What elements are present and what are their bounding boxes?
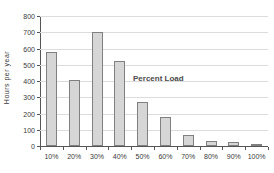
x-tick-mark-8	[222, 147, 223, 150]
plot-area: Percent Load	[40, 16, 268, 146]
x-tick-label-100%: 100%	[245, 153, 269, 160]
x-tick-label-80%: 80%	[199, 153, 223, 160]
y-tick-mark-100	[37, 130, 40, 131]
x-tick-mark-3	[108, 147, 109, 150]
y-tick-label-0: 0	[11, 143, 35, 150]
x-tick-label-20%: 20%	[62, 153, 86, 160]
x-tick-label-30%: 30%	[85, 153, 109, 160]
x-tick-label-40%: 40%	[108, 153, 132, 160]
y-tick-label-800: 800	[11, 13, 35, 20]
y-tick-mark-400	[37, 81, 40, 82]
y-tick-label-700: 700	[11, 29, 35, 36]
x-tick-mark-7	[200, 147, 201, 150]
y-axis-title: Hours per year	[3, 46, 10, 110]
x-tick-mark-5	[154, 147, 155, 150]
gridline-800	[40, 16, 268, 17]
x-tick-label-60%: 60%	[153, 153, 177, 160]
x-tick-mark-10	[268, 147, 269, 150]
x-tick-mark-0	[40, 147, 41, 150]
y-tick-mark-300	[37, 97, 40, 98]
x-tick-label-50%: 50%	[131, 153, 155, 160]
x-tick-label-90%: 90%	[222, 153, 246, 160]
y-tick-mark-600	[37, 49, 40, 50]
y-tick-label-100: 100	[11, 127, 35, 134]
y-tick-label-600: 600	[11, 46, 35, 53]
x-tick-mark-2	[86, 147, 87, 150]
y-tick-mark-500	[37, 65, 40, 66]
bar-70%	[183, 135, 194, 146]
y-tick-mark-800	[37, 16, 40, 17]
bar-20%	[69, 80, 80, 146]
bar-10%	[46, 52, 57, 146]
bar-90%	[228, 142, 239, 146]
bar-60%	[160, 117, 171, 146]
x-tick-label-10%: 10%	[39, 153, 63, 160]
x-tick-mark-4	[131, 147, 132, 150]
x-tick-mark-1	[63, 147, 64, 150]
y-tick-label-200: 200	[11, 111, 35, 118]
bar-80%	[206, 141, 217, 146]
y-tick-label-500: 500	[11, 62, 35, 69]
gridline-700	[40, 32, 268, 33]
y-tick-label-400: 400	[11, 78, 35, 85]
chart-annotation: Percent Load	[133, 74, 184, 83]
x-tick-label-70%: 70%	[176, 153, 200, 160]
bar-40%	[114, 61, 125, 146]
gridline-500	[40, 65, 268, 66]
x-axis-line	[37, 146, 268, 147]
gridline-600	[40, 49, 268, 50]
x-tick-mark-9	[245, 147, 246, 150]
y-tick-mark-700	[37, 32, 40, 33]
bar-chart-figure: Hours per year Percent Load 010020030040…	[0, 0, 274, 173]
bar-30%	[92, 32, 103, 146]
bar-100%	[251, 144, 262, 146]
y-tick-label-300: 300	[11, 94, 35, 101]
x-tick-mark-6	[177, 147, 178, 150]
bar-50%	[137, 102, 148, 146]
y-tick-mark-200	[37, 114, 40, 115]
